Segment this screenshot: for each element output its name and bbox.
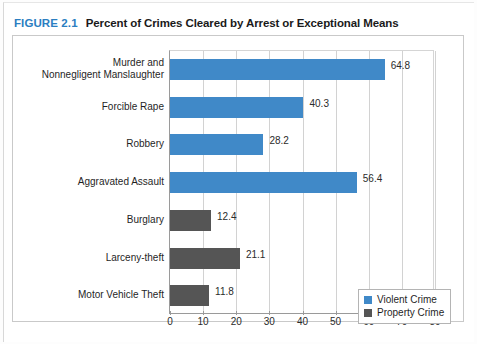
x-tick-mark-10 — [203, 311, 204, 315]
bar-value-label: 64.8 — [391, 60, 410, 71]
bar-larceny-theft — [170, 248, 240, 269]
legend-swatch-violent-icon — [364, 296, 372, 304]
bar-row: 56.4 — [170, 164, 433, 202]
page-title: Percent of Crimes Cleared by Arrest or E… — [86, 17, 399, 29]
bar-forcible-rape — [170, 97, 303, 118]
category-label-robbery: Robbery — [14, 138, 164, 150]
x-tick-mark-50 — [336, 311, 337, 315]
bar-aggravated-assault — [170, 172, 357, 193]
bar-row: 40.3 — [170, 89, 433, 127]
chart-legend: Violent Crime Property Crime — [358, 289, 451, 324]
bar-row: 64.8 — [170, 51, 433, 89]
bar-value-label: 56.4 — [363, 173, 382, 184]
chart-container: Murder andNonnegligent ManslaughterForci… — [12, 35, 464, 322]
legend-item-violent-crime: Violent Crime — [364, 293, 444, 306]
plot-area: 64.840.328.256.412.421.111.8 — [169, 50, 434, 314]
legend-label-violent: Violent Crime — [377, 294, 437, 305]
x-tick-label-20: 20 — [231, 316, 242, 327]
bar-value-label: 12.4 — [217, 211, 236, 222]
figure-number: FIGURE 2.1 — [14, 17, 78, 29]
bar-motor-vehicle-theft — [170, 285, 209, 306]
bar-robbery — [170, 134, 263, 155]
bar-value-label: 40.3 — [309, 98, 328, 109]
bar-value-label: 21.1 — [246, 249, 265, 260]
legend-label-property: Property Crime — [377, 307, 444, 318]
x-tick-mark-0 — [170, 311, 171, 315]
category-label-murder-and: Murder andNonnegligent Manslaughter — [14, 57, 164, 80]
category-label-motor-vehicle-theft: Motor Vehicle Theft — [14, 289, 164, 301]
category-axis-labels: Murder andNonnegligent ManslaughterForci… — [13, 50, 167, 314]
x-tick-label-30: 30 — [264, 316, 275, 327]
figure-header: FIGURE 2.1Percent of Crimes Cleared by A… — [14, 13, 464, 29]
bar-value-label: 11.8 — [215, 286, 234, 297]
source-note — [14, 333, 314, 342]
bar-series: 64.840.328.256.412.421.111.8 — [170, 51, 433, 313]
x-tick-label-10: 10 — [198, 316, 209, 327]
x-tick-label-40: 40 — [297, 316, 308, 327]
x-tick-mark-30 — [269, 311, 270, 315]
category-label-larceny-theft: Larceny-theft — [14, 252, 164, 264]
legend-item-property-crime: Property Crime — [364, 306, 444, 319]
category-label-burglary: Burglary — [14, 214, 164, 226]
bar-value-label: 28.2 — [269, 135, 288, 146]
gridline-80 — [435, 51, 436, 313]
legend-swatch-property-icon — [364, 309, 372, 317]
x-tick-label-0: 0 — [167, 316, 173, 327]
x-tick-mark-40 — [303, 311, 304, 315]
x-tick-label-50: 50 — [330, 316, 341, 327]
bar-murder-and — [170, 59, 385, 80]
bar-burglary — [170, 210, 211, 231]
bar-row: 28.2 — [170, 126, 433, 164]
figure-page: FIGURE 2.1Percent of Crimes Cleared by A… — [0, 0, 477, 344]
category-label-forcible-rape: Forcible Rape — [14, 101, 164, 113]
category-label-aggravated-assault: Aggravated Assault — [14, 176, 164, 188]
x-tick-mark-20 — [236, 311, 237, 315]
bar-row: 21.1 — [170, 240, 433, 278]
bar-row: 12.4 — [170, 202, 433, 240]
